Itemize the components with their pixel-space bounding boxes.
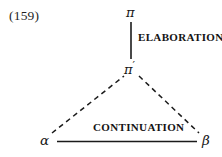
example-number-label: (159) [9,9,39,23]
relation-label-continuation: CONTINUATION [93,122,184,133]
relation-label-elaboration: ELABORATION [138,32,222,43]
node-beta: β [202,134,210,148]
node-alpha: α [40,134,49,148]
discourse-structure-figure: (159) π π′ α β ELABORATION CONTINUATION [0,0,222,157]
diagram-canvas [0,0,222,157]
node-pi-prime: π′ [124,60,135,76]
node-pi: π [126,6,135,19]
node-pi-prime-base: π [124,62,133,77]
prime-mark: ′ [133,59,136,72]
